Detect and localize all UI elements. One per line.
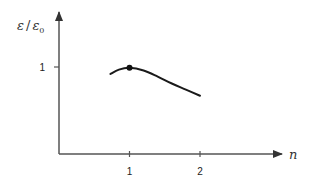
y-axis-label: ε/ε0 [17, 18, 44, 35]
chart: ε/ε0 n 121 [0, 0, 311, 189]
data-curve [110, 68, 200, 96]
y-tick-label: 1 [39, 62, 45, 73]
x-tick-label: 2 [197, 166, 203, 177]
axis-ticks: 121 [39, 62, 203, 177]
peak-marker [127, 65, 133, 71]
x-axis-label: n [289, 147, 297, 162]
svg-text:ε/ε0: ε/ε0 [17, 18, 44, 35]
x-tick-label: 1 [127, 166, 133, 177]
